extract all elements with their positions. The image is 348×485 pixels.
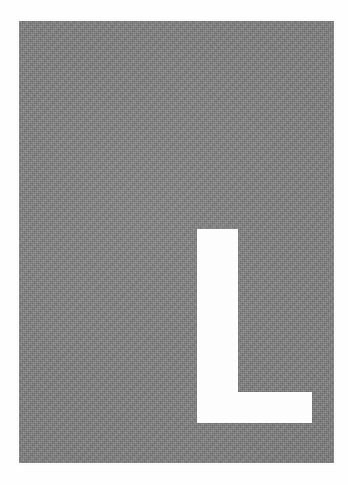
image-canvas: L bbox=[0, 0, 348, 485]
letter-l-foot bbox=[197, 392, 312, 423]
grey-placard bbox=[19, 21, 334, 463]
